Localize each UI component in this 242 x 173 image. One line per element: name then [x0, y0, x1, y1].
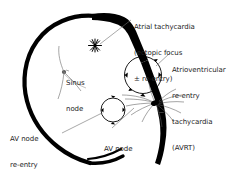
label-av-node: AV node: [104, 128, 132, 171]
label-sinus-node-line2: node: [66, 105, 85, 114]
label-avrt-line1: Atrioventricular: [172, 66, 226, 75]
label-atrial-tachycardia-line1: Atrial tachycardia: [134, 23, 195, 32]
label-avrt-line3: tachycardia: [172, 118, 226, 127]
label-avrt-line2: re-entry: [172, 92, 226, 101]
label-avnrt-line1: AV node: [10, 135, 50, 144]
label-avrt-line4: (AVRT): [172, 144, 226, 153]
starburst-icon: [89, 39, 102, 52]
label-avnrt-line2: re-entry: [10, 161, 50, 170]
cardiac-tachycardia-diagram: Atrial tachycardia (ectopic focus ± re-e…: [0, 0, 242, 173]
label-av-node-line1: AV node: [104, 145, 132, 154]
reentry-circle-avnrt-icon: [101, 95, 125, 124]
label-avrt: Atrioventricular re-entry tachycardia (A…: [172, 49, 226, 169]
label-sinus-node: Sinus node: [66, 62, 85, 131]
label-avnrt: AV node re-entry tachycardia (AVNRT): [10, 118, 50, 173]
label-sinus-node-line1: Sinus: [66, 79, 85, 88]
